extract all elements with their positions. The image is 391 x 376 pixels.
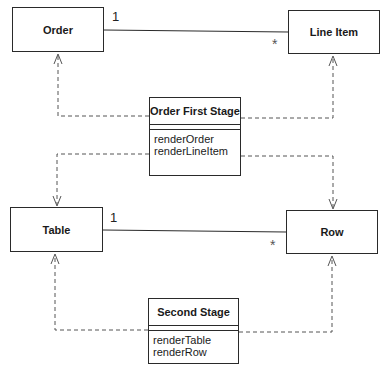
operation-render-row: renderRow (153, 346, 234, 358)
multiplicity-line-item: * (272, 36, 277, 52)
association-order-lineitem (104, 30, 288, 32)
class-order-first-stage-name: Order First Stage (150, 98, 240, 125)
class-row[interactable]: Row (286, 210, 378, 254)
operation-render-order: renderOrder (154, 133, 236, 145)
class-line-item[interactable]: Line Item (288, 10, 380, 54)
multiplicity-row: * (270, 237, 275, 253)
class-order-first-stage[interactable]: Order First Stage renderOrder renderLine… (149, 97, 241, 176)
class-second-stage-name: Second Stage (149, 299, 238, 326)
class-row-name: Row (320, 226, 343, 238)
class-table-name: Table (43, 224, 71, 236)
multiplicity-table: 1 (110, 210, 117, 225)
operations-compartment: renderOrder renderLineItem (150, 130, 240, 160)
dependency-ofs-order (58, 55, 149, 116)
multiplicity-order: 1 (112, 9, 119, 24)
class-second-stage[interactable]: Second Stage renderTable renderRow (148, 298, 239, 364)
association-table-row (103, 230, 286, 232)
dependency-ofs-table (57, 154, 149, 204)
dependency-ofs-row (241, 156, 333, 207)
operation-render-table: renderTable (153, 334, 234, 346)
class-table[interactable]: Table (10, 207, 103, 252)
class-order-name: Order (43, 24, 73, 36)
class-order[interactable]: Order (12, 7, 104, 52)
dependency-ofs-lineitem (241, 57, 333, 118)
dependency-ss-table (55, 255, 148, 330)
operation-render-line-item: renderLineItem (154, 145, 236, 157)
class-line-item-name: Line Item (310, 26, 358, 38)
operations-compartment: renderTable renderRow (149, 331, 238, 361)
dependency-ss-row (239, 257, 332, 332)
